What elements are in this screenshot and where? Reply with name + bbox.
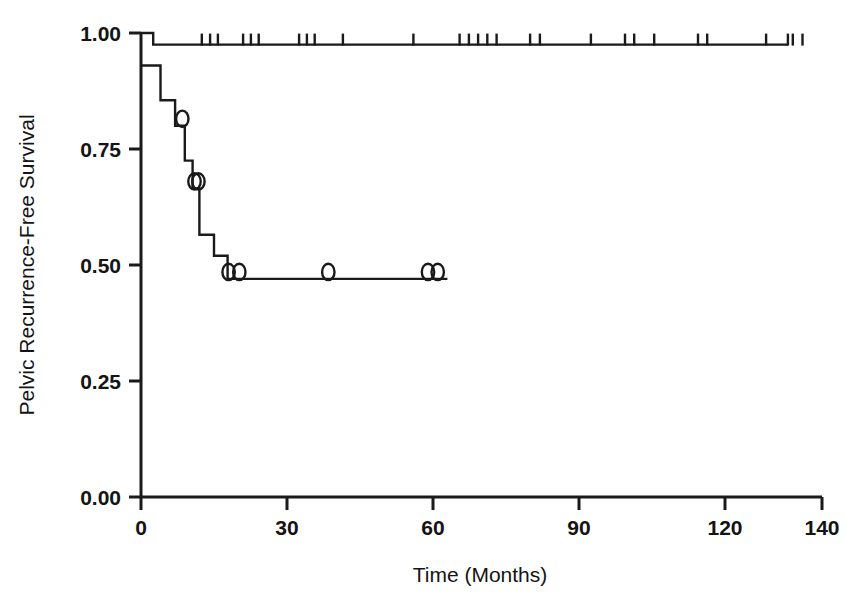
y-tick-label-025: 0.25 (80, 370, 121, 393)
y-axis-tick-labels: 1.00 0.75 0.50 0.25 0.00 (80, 22, 121, 509)
kaplan-meier-figure: 1.00 0.75 0.50 0.25 0.00 0 30 60 90 120 … (0, 0, 845, 604)
x-tick-label-120: 120 (707, 516, 742, 539)
y-axis-title: Pelvic Recurrence-Free Survival (15, 114, 38, 415)
y-tick-label-075: 0.75 (80, 138, 121, 161)
survival-step-line (141, 66, 447, 279)
y-tick-label-000: 0.00 (80, 486, 121, 509)
censor-circle-marker (322, 264, 334, 280)
survival-plot-svg: 1.00 0.75 0.50 0.25 0.00 0 30 60 90 120 … (0, 0, 845, 604)
y-tick-label-050: 0.50 (80, 254, 121, 277)
x-tick-label-90: 90 (567, 516, 590, 539)
x-axis-ticks (141, 497, 822, 510)
survival-step-line (141, 33, 788, 45)
x-tick-label-140: 140 (804, 516, 839, 539)
y-tick-label-100: 1.00 (80, 22, 121, 45)
y-axis-ticks (129, 33, 141, 497)
censor-circle-marker (176, 111, 188, 127)
x-tick-label-0: 0 (135, 516, 147, 539)
x-axis-title: Time (Months) (413, 563, 548, 586)
survival-curves (141, 33, 803, 280)
x-axis-tick-labels: 0 30 60 90 120 140 (135, 516, 839, 539)
x-tick-label-30: 30 (275, 516, 298, 539)
x-tick-label-60: 60 (421, 516, 444, 539)
